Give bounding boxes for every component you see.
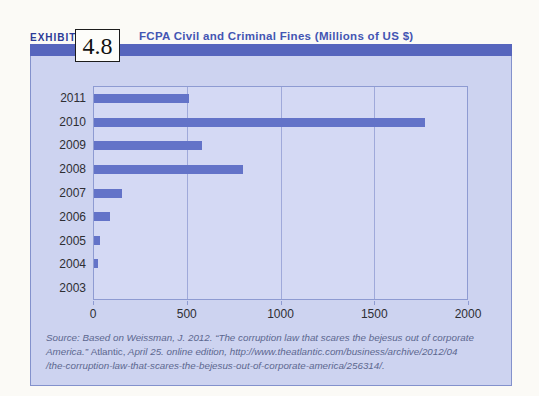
bar-2004 (94, 259, 98, 268)
x-tick-label-500: 500 (177, 307, 197, 321)
exhibit-number-box: 4.8 (75, 29, 120, 62)
x-tick-mark-1500 (374, 301, 375, 305)
x-tick-label-0: 0 (90, 307, 97, 321)
bar-2005 (94, 236, 100, 245)
x-tick-mark-500 (187, 301, 188, 305)
bar-row-2007 (94, 181, 467, 205)
year-label-2008: 2008 (40, 157, 86, 181)
bar-2011 (94, 94, 189, 103)
source-line-3: /the-corruption-law-that-scares-the-beje… (46, 359, 508, 373)
bar-row-2006 (94, 205, 467, 229)
year-label-2010: 2010 (40, 110, 86, 134)
source-atlantic: Atlantic, (91, 346, 126, 357)
bar-row-2010 (94, 111, 467, 135)
bar-row-2011 (94, 87, 467, 111)
bar-2010 (94, 118, 425, 127)
exhibit-number: 4.8 (83, 34, 113, 58)
x-tick-label-1500: 1500 (361, 307, 388, 321)
source-line-2: America.” Atlantic, April 25. online edi… (46, 345, 508, 359)
bar-row-2005 (94, 228, 467, 252)
source-line-1: Source: Based on Weissman, J. 2012. “The… (46, 331, 508, 345)
bar-row-2003 (94, 276, 467, 300)
exhibit-title: FCPA Civil and Criminal Fines (Millions … (139, 30, 413, 42)
bar-row-2008 (94, 158, 467, 182)
bar-row-2009 (94, 134, 467, 158)
bar-2007 (94, 189, 122, 198)
year-label-2011: 2011 (40, 86, 86, 110)
exhibit-label: EXHIBIT (30, 32, 76, 43)
x-tick-mark-2000 (468, 301, 469, 305)
year-label-2007: 2007 (40, 181, 86, 205)
x-tick-mark-0 (93, 301, 94, 305)
year-label-2003: 2003 (40, 276, 86, 300)
x-axis: 0500100015002000 (93, 301, 468, 325)
bar-2008 (94, 165, 243, 174)
year-label-2009: 2009 (40, 134, 86, 158)
x-tick-label-1000: 1000 (267, 307, 294, 321)
year-label-2004: 2004 (40, 252, 86, 276)
bar-row-2004 (94, 252, 467, 276)
plot-area (93, 86, 468, 300)
exhibit-figure: EXHIBIT 4.8 FCPA Civil and Criminal Fine… (0, 0, 539, 396)
year-label-2005: 2005 (40, 229, 86, 253)
y-axis-labels: 201120102009200820072006200520042003 (40, 86, 86, 300)
x-tick-mark-1000 (281, 301, 282, 305)
source-note: Source: Based on Weissman, J. 2012. “The… (46, 331, 508, 373)
x-tick-label-2000: 2000 (455, 307, 482, 321)
year-label-2006: 2006 (40, 205, 86, 229)
bar-2009 (94, 141, 202, 150)
bar-2006 (94, 212, 110, 221)
